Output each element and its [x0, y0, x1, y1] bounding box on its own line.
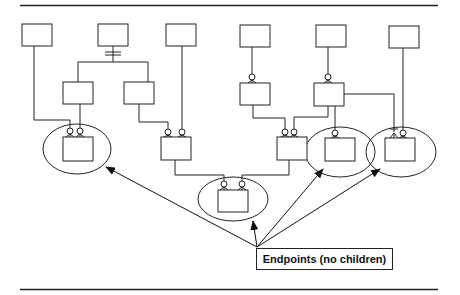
entity-box-k-endpoint — [63, 137, 93, 161]
entity-box-m — [277, 137, 307, 160]
endpoints-label: Endpoints (no children) — [256, 248, 393, 270]
entity-box-e — [316, 25, 346, 47]
arrow-to-o — [257, 169, 380, 247]
entity-box-f — [389, 26, 419, 48]
entity-box-c — [166, 24, 196, 46]
entity-box-p-endpoint — [218, 190, 248, 212]
arrow-to-p — [253, 221, 257, 247]
entity-box-n-endpoint — [325, 138, 355, 161]
entity-box-d — [240, 25, 270, 47]
endpoints-label-text: Endpoints (no children) — [263, 253, 386, 265]
entity-box-i — [240, 83, 270, 105]
entity-box-j — [314, 83, 344, 106]
entity-box-o-endpoint — [385, 138, 415, 161]
entity-box-b — [98, 24, 128, 46]
entity-box-h — [124, 82, 154, 104]
entity-box-g — [63, 82, 93, 104]
entity-box-a — [22, 24, 52, 46]
relationship-lines — [34, 46, 403, 183]
entity-box-l — [161, 137, 191, 160]
arrow-to-n — [257, 169, 323, 247]
